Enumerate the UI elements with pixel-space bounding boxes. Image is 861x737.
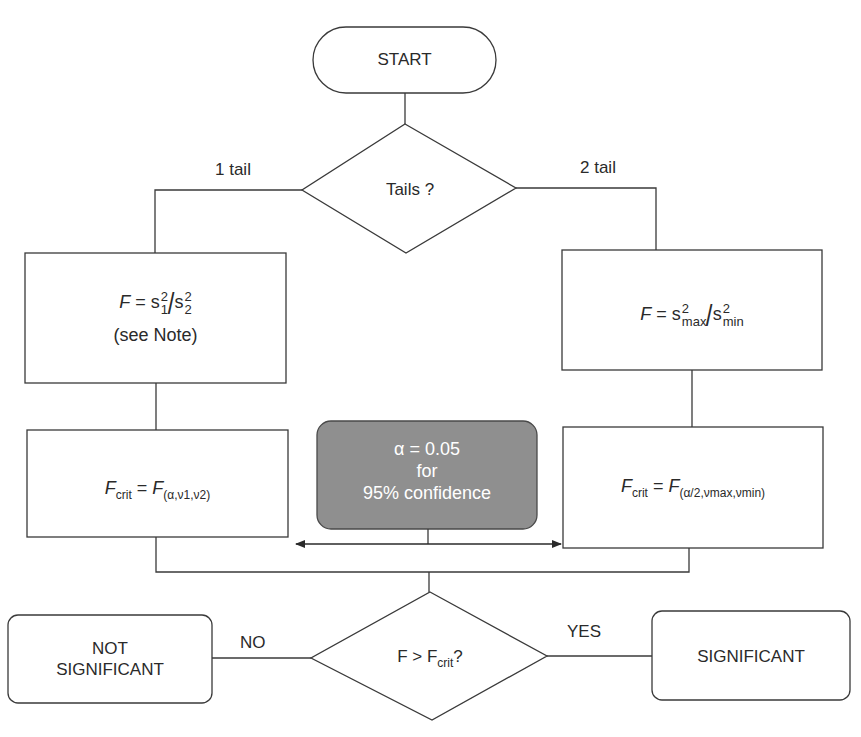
formula-denominator: s2min [713,304,744,324]
one-tail-statistic-shape [25,253,286,383]
one-tail-statistic-note: (see Note) [25,325,286,346]
fraction-slash: / [706,305,713,326]
edge-label-no: NO [240,633,266,653]
start-label: START [313,49,496,70]
edge-label-two-tail: 2 tail [580,158,616,178]
flowchart-canvas [0,0,861,737]
alpha-note-text: α = 0.05 for 95% confidence [317,438,537,504]
tails-decision-label: Tails ? [330,179,490,200]
formula-numerator: s2max [672,304,707,324]
connector-two-tail [516,188,656,250]
formula-numerator: s21 [151,292,168,312]
connector-one-tail [155,190,302,253]
formula-f: F [119,292,130,312]
significant-label: SIGNIFICANT [652,646,850,667]
one-tail-critical-formula: Fcrit = F(α,ν1,ν2) [27,478,288,506]
alpha-note-line-1: α = 0.05 [317,438,537,460]
one-tail-statistic-formula: F = s21/s22 [25,290,286,316]
two-tail-statistic-formula: F = s2max/s2min [562,302,822,328]
fraction-slash: / [168,293,175,314]
formula-eq: = [130,292,151,312]
formula-denominator: s22 [174,292,191,312]
edge-label-one-tail: 1 tail [215,160,251,180]
two-tail-critical-formula: Fcrit = F(α/2,νmax,νmin) [563,476,823,504]
alpha-note-line-2: for [317,460,537,482]
alpha-note-line-3: 95% confidence [317,482,537,504]
compare-decision-label: F > Fcrit? [350,646,510,674]
edge-label-yes: YES [567,622,601,642]
not-significant-label: NOT SIGNIFICANT [8,638,212,680]
